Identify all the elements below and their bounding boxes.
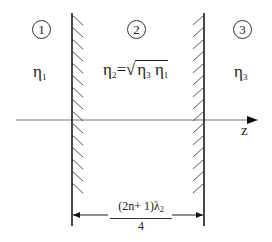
left-wall-hatching [72,15,83,193]
z-axis-label: z [241,122,248,139]
region-1-number: 1 [32,20,51,39]
z-axis-arrowhead-icon [247,116,258,124]
region-3-impedance: η3 [234,62,247,87]
right-wall-hatching [193,15,204,193]
sqrt-radicand: η3 η1 [135,60,168,84]
region-1-impedance: η1 [33,62,46,87]
dimension-arrowhead-left-icon [73,212,80,218]
region-2-number: 2 [127,20,146,39]
layer-thickness-label: (2n+ 1)λ2 4 [110,200,172,233]
region-2-impedance-equation: η2=√η3 η1 [103,60,168,85]
region-3-number: 3 [233,20,252,39]
dimension-arrowhead-right-icon [196,212,203,218]
